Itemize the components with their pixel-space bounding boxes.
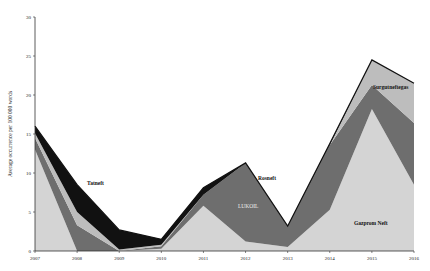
y-tick-label: 15	[26, 132, 32, 137]
series-label-surgutneftegas: Surgutneftegas	[373, 84, 408, 90]
y-tick-label: 20	[26, 93, 32, 98]
x-tick-label: 2016	[409, 256, 420, 261]
x-tick-label: 2007	[30, 256, 41, 261]
series-label-tatneft: Tatneft	[87, 180, 104, 186]
series-label-rosneft: Rosneft	[258, 175, 276, 181]
x-tick-label: 2015	[367, 256, 378, 261]
y-tick-label: 0	[29, 249, 32, 254]
y-axis-label: Average occurrence per 100 000 words	[7, 91, 13, 177]
x-tick-label: 2010	[156, 256, 167, 261]
x-tick-label: 2013	[283, 256, 294, 261]
stacked-area-chart: 0510152025302007200820092010201120122013…	[0, 0, 430, 271]
x-tick-label: 2011	[199, 256, 209, 261]
x-tick-label: 2009	[114, 256, 125, 261]
x-tick-label: 2008	[72, 256, 83, 261]
y-tick-label: 25	[26, 54, 32, 59]
series-label-lukoil: LUKOIL	[238, 203, 259, 209]
series-label-gazprom-neft: Gazprom Neft	[354, 220, 388, 226]
y-tick-label: 30	[26, 15, 32, 20]
y-tick-label: 10	[26, 171, 32, 176]
x-tick-label: 2014	[325, 256, 336, 261]
x-tick-label: 2012	[241, 256, 252, 261]
y-tick-label: 5	[29, 210, 32, 215]
